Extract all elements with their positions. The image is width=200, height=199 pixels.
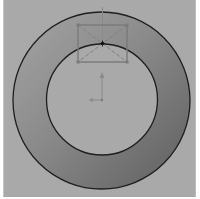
rectangle-corner-handle-bl[interactable] (77, 61, 80, 64)
rectangle-corner-handle-tl[interactable] (77, 24, 80, 27)
graphics-viewport[interactable] (3, 0, 196, 197)
rectangle-corner-handle-tr[interactable] (126, 24, 129, 27)
sketch-canvas[interactable] (3, 0, 196, 197)
rectangle-corner-handle-br[interactable] (126, 61, 129, 64)
